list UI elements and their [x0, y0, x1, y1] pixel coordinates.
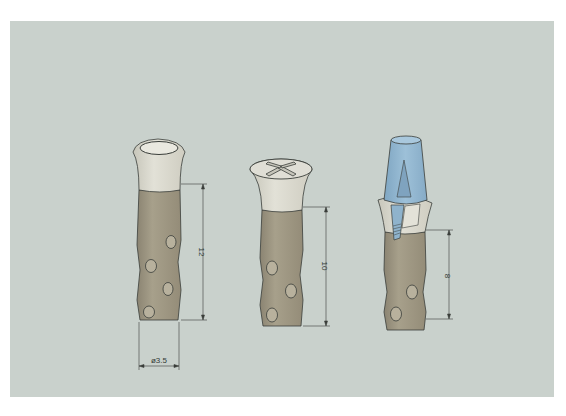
implant-3-post-top	[391, 136, 421, 144]
implant-1-length-label: 12	[197, 248, 206, 257]
implant-diagram: 12 ø3.5	[0, 0, 566, 416]
implant-2-length-label: 10	[320, 262, 329, 271]
implant-3-length-label: 8	[443, 274, 452, 279]
implant-1-body	[137, 190, 181, 320]
implant-3: 8	[378, 136, 453, 330]
implant-1-diameter-label: ø3.5	[151, 356, 168, 365]
implant-1-cup-rim	[140, 142, 178, 155]
implant-2: 10	[250, 159, 330, 326]
implant-1: 12 ø3.5	[133, 139, 207, 370]
implant-3-abutment-step	[402, 204, 420, 228]
